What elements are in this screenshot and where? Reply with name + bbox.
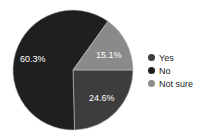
label-not-sure: 15.1% [96,50,122,60]
legend-dot-icon [148,80,155,87]
legend-item-no[interactable]: No [148,64,193,77]
legend-label: Not sure [159,79,193,89]
label-no: 60.3% [20,54,46,64]
label-yes: 24.6% [89,93,115,103]
legend: Yes No Not sure [148,51,193,90]
legend-dot-icon [148,54,155,61]
legend-item-not-sure[interactable]: Not sure [148,77,193,90]
legend-dot-icon [148,67,155,74]
legend-label: Yes [159,53,174,63]
legend-label: No [159,66,171,76]
legend-item-yes[interactable]: Yes [148,51,193,64]
